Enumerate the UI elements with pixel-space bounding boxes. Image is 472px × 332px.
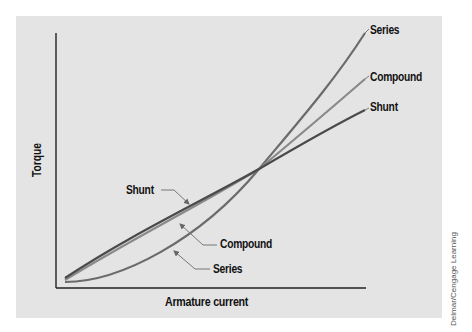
shunt-end-leader: [365, 108, 369, 110]
credit-text: Delmar/Cengage Learning: [449, 232, 458, 326]
series-callout-label: Series: [213, 262, 242, 276]
compound-callout-label: Compound: [220, 237, 272, 251]
shunt-callout-leader: [161, 190, 189, 204]
series-end-label: Series: [370, 23, 399, 37]
series-callout-leader: [174, 251, 210, 269]
x-axis-label: Armature current: [165, 294, 248, 309]
torque-current-plot: [0, 0, 472, 332]
compound-end-leader: [365, 76, 369, 79]
y-axis-label: Torque: [30, 143, 44, 177]
shunt-callout-label: Shunt: [126, 183, 154, 197]
series-end-leader: [365, 29, 369, 33]
shunt-end-label: Shunt: [370, 100, 398, 114]
compound-end-label: Compound: [370, 70, 422, 84]
